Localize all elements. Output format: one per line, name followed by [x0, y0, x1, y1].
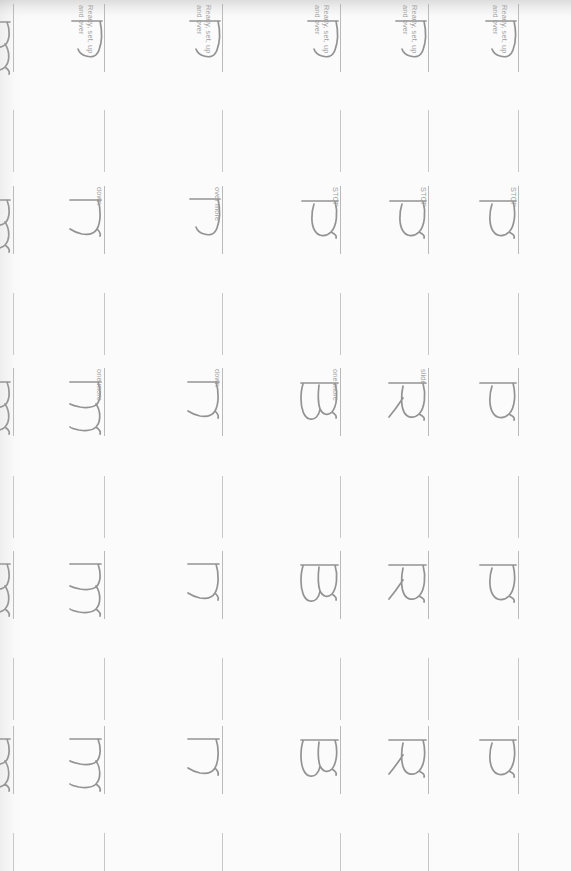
practice-rule — [518, 110, 519, 172]
letter-R-glyph — [386, 560, 428, 606]
letter-P-glyph — [478, 560, 518, 604]
practice-rule — [518, 658, 519, 720]
letter-m-glyph — [0, 560, 13, 618]
letter-R-glyph — [386, 735, 428, 781]
practice-rule — [13, 476, 14, 538]
practice-rule — [428, 476, 429, 538]
baseline-rule — [340, 726, 341, 794]
letter-n-glyph — [186, 560, 222, 604]
letter-P-glyph — [478, 735, 518, 779]
practice-rule — [222, 476, 223, 538]
practice-rule — [340, 658, 341, 720]
letter-R-glyph — [386, 378, 428, 424]
baseline-rule — [222, 186, 223, 254]
cue-label-ready-set: Ready, set, up and over — [77, 5, 94, 54]
baseline-rule — [13, 186, 14, 254]
baseline-rule — [428, 368, 429, 436]
baseline-rule — [104, 551, 105, 619]
baseline-rule — [222, 368, 223, 436]
baseline-rule — [13, 4, 14, 72]
baseline-rule — [340, 4, 341, 72]
cue-label-ready-set: Ready, set, up and over — [491, 5, 508, 54]
letter-B-glyph — [298, 560, 340, 606]
letter-P-glyph — [478, 378, 518, 422]
practice-rule — [104, 658, 105, 720]
baseline-rule — [518, 368, 519, 436]
baseline-rule — [104, 726, 105, 794]
practice-rule — [222, 833, 223, 871]
baseline-rule — [222, 551, 223, 619]
practice-rule — [428, 658, 429, 720]
practice-rule — [340, 476, 341, 538]
letter-n-glyph — [186, 735, 222, 779]
cue-label-one-more: one more — [330, 369, 339, 401]
practice-rule — [518, 833, 519, 871]
letter-B-glyph — [298, 735, 340, 781]
practice-rule — [222, 658, 223, 720]
worksheet-page: Ready, set, up and overdownone moreReady… — [0, 0, 571, 871]
baseline-rule — [340, 368, 341, 436]
cue-label-ready-set: Ready, set, up and over — [195, 5, 212, 54]
practice-rule — [428, 110, 429, 172]
letter-m-glyph — [68, 735, 104, 793]
cue-label-slide: slide — [418, 369, 427, 385]
letter-m-glyph — [0, 378, 13, 436]
practice-rule — [428, 833, 429, 871]
practice-rule — [222, 293, 223, 355]
practice-rule — [13, 658, 14, 720]
practice-rule — [104, 110, 105, 172]
baseline-rule — [13, 551, 14, 619]
baseline-rule — [104, 186, 105, 254]
baseline-rule — [222, 4, 223, 72]
cue-label-stop: STOP — [508, 187, 517, 207]
baseline-rule — [428, 186, 429, 254]
letter-m-glyph — [0, 735, 13, 793]
practice-rule — [13, 110, 14, 172]
practice-rule — [104, 476, 105, 538]
baseline-rule — [13, 368, 14, 436]
baseline-rule — [222, 726, 223, 794]
baseline-rule — [518, 4, 519, 72]
practice-rule — [340, 833, 341, 871]
practice-rule — [222, 110, 223, 172]
baseline-rule — [428, 551, 429, 619]
practice-rule — [104, 293, 105, 355]
practice-rule — [518, 476, 519, 538]
baseline-rule — [428, 726, 429, 794]
baseline-rule — [518, 186, 519, 254]
cue-label-stop: STOP — [418, 187, 427, 207]
cue-label-over-more: over more — [212, 187, 221, 221]
practice-rule — [518, 293, 519, 355]
cue-label-ready-set: Ready, set, up and over — [401, 5, 418, 54]
baseline-rule — [13, 726, 14, 794]
practice-rule — [13, 833, 14, 871]
letter-m-glyph — [0, 18, 13, 76]
practice-rule — [428, 293, 429, 355]
baseline-rule — [518, 551, 519, 619]
baseline-rule — [340, 551, 341, 619]
baseline-rule — [428, 4, 429, 72]
letter-m-glyph — [0, 196, 13, 254]
cue-label-ready-set: Ready, set, up and over — [313, 5, 330, 54]
baseline-rule — [104, 368, 105, 436]
practice-rule — [13, 293, 14, 355]
practice-rule — [340, 293, 341, 355]
practice-rule — [340, 110, 341, 172]
practice-rule — [104, 833, 105, 871]
cue-label-stop: STOP — [330, 187, 339, 207]
baseline-rule — [518, 726, 519, 794]
letter-m-glyph — [68, 560, 104, 618]
baseline-rule — [104, 4, 105, 72]
baseline-rule — [340, 186, 341, 254]
cue-label-one-more: one more — [94, 369, 103, 401]
cue-label-down: down — [212, 369, 221, 387]
cue-label-down: down — [94, 187, 103, 205]
